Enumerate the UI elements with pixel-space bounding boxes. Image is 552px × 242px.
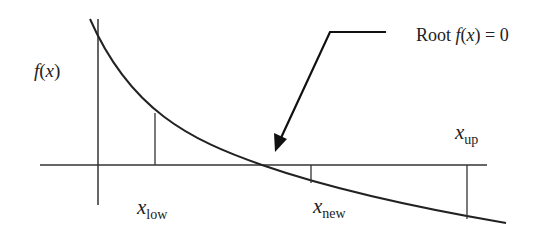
root-callout-arrow [280,32,386,140]
function-curve [90,19,506,223]
y-axis-label: f(x) [34,60,60,82]
arrowhead-icon [274,133,287,152]
x-up-label: xup [454,120,478,147]
bisection-diagram: f(x) Root f(x) = 0 xlow xnew xup [0,0,552,242]
x-new-label: xnew [312,194,347,221]
x-low-label: xlow [136,195,168,222]
root-label: Root f(x) = 0 [416,25,509,46]
